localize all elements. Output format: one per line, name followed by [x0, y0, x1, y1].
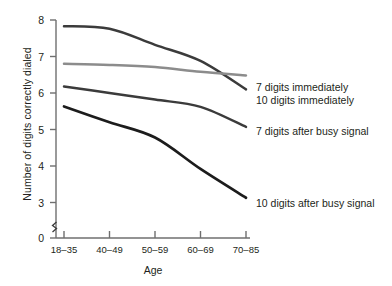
- series-label-10-digits-after-busy-signal: 10 digits after busy signal: [256, 197, 374, 209]
- series-label-7-digits-immediately: 7 digits immediately: [256, 81, 348, 93]
- x-ticks: [64, 231, 246, 238]
- series-line-10-digits-immediately: [64, 64, 246, 76]
- chart-container: 8 7 6 5 4 3 0 18–35 40–49 50–59 60–69 70…: [0, 0, 392, 286]
- y-axis-title: Number of digits correctly dialed: [21, 24, 33, 224]
- y-ticks: [50, 20, 56, 238]
- series-label-7-digits-after-busy-signal: 7 digits after busy signal: [256, 125, 369, 137]
- x-axis-title: Age: [56, 264, 250, 276]
- series-line-7-digits-after-busy-signal: [64, 86, 246, 127]
- series-line-10-digits-after-busy-signal: [64, 107, 246, 198]
- y-tick-label-0: 0: [22, 232, 44, 244]
- x-tick-label-70-85: 70–85: [218, 244, 274, 255]
- series-line-7-digits-immediately: [64, 26, 246, 89]
- series-label-10-digits-immediately: 10 digits immediately: [256, 94, 354, 106]
